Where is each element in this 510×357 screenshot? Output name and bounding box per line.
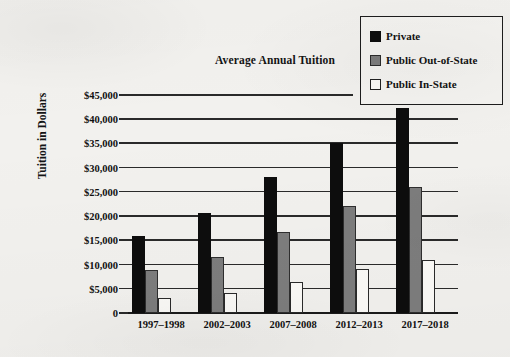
x-axis-tick-labels: 1997–19982002–20032007–20082012–20132017… — [128, 319, 458, 339]
bar-group — [198, 95, 237, 313]
y-axis-tick-label: $35,000 — [52, 138, 118, 149]
y-axis-tick-label: $15,000 — [52, 235, 118, 246]
y-axis-tick-label: $40,000 — [52, 114, 118, 125]
bar-group — [396, 95, 435, 313]
legend-swatch-icon — [370, 31, 381, 42]
bar[interactable] — [396, 108, 409, 313]
y-axis-tick-mark — [119, 118, 128, 120]
bar[interactable] — [198, 213, 211, 313]
bar[interactable] — [145, 270, 158, 313]
bar-group — [132, 95, 171, 313]
bar[interactable] — [132, 236, 145, 314]
y-axis-tick-mark — [119, 312, 128, 314]
legend-item[interactable]: Public In-State — [370, 72, 502, 96]
bar[interactable] — [422, 260, 435, 313]
x-axis-tick-label: 2017–2018 — [387, 319, 463, 330]
bar[interactable] — [343, 206, 356, 313]
y-axis-tick-mark — [119, 239, 128, 241]
y-axis-tick-label: $45,000 — [52, 90, 118, 101]
y-axis-tick-label: $25,000 — [52, 186, 118, 197]
bar[interactable] — [277, 232, 290, 313]
bar[interactable] — [356, 269, 369, 313]
x-axis-tick-label: 2012–2013 — [321, 319, 397, 330]
bar[interactable] — [330, 143, 343, 313]
legend-swatch-icon — [370, 55, 381, 66]
y-axis-tick-label: $10,000 — [52, 259, 118, 270]
legend-label: Private — [386, 31, 420, 42]
y-axis-tick-mark — [119, 94, 128, 96]
y-axis-tick-label: $5,000 — [52, 283, 118, 294]
bar[interactable] — [211, 257, 224, 313]
bar[interactable] — [409, 187, 422, 313]
y-axis-tick-mark — [119, 167, 128, 169]
y-axis-tick-labels: $45,000$40,000$35,000$30,000$25,000$20,0… — [52, 95, 118, 313]
x-axis-tick-label: 2007–2008 — [255, 319, 331, 330]
y-axis-tick-label: $30,000 — [52, 162, 118, 173]
legend-label: Public Out-of-State — [386, 55, 477, 66]
legend-item[interactable]: Private — [370, 24, 502, 48]
bar[interactable] — [264, 177, 277, 313]
y-axis-tick-mark — [119, 215, 128, 217]
bar[interactable] — [224, 293, 237, 313]
x-axis-tick-label: 2002–2003 — [189, 319, 265, 330]
bar-group — [264, 95, 303, 313]
legend-label: Public In-State — [386, 79, 457, 90]
y-axis-tick-mark — [119, 191, 128, 193]
legend-item[interactable]: Public Out-of-State — [370, 48, 502, 72]
y-axis-tick-mark — [119, 142, 128, 144]
y-axis-tick-mark — [119, 288, 128, 290]
y-axis-tick-mark — [119, 264, 128, 266]
bar[interactable] — [290, 282, 303, 313]
y-axis-tick-label: $20,000 — [52, 211, 118, 222]
y-axis-tick-label: 0 — [52, 308, 118, 319]
bar[interactable] — [158, 298, 171, 313]
legend-swatch-icon — [370, 79, 381, 90]
bars-layer — [128, 95, 458, 313]
chart-title: Average Annual Tuition — [200, 54, 350, 66]
chart-legend: PrivatePublic Out-of-StatePublic In-Stat… — [360, 16, 503, 105]
bar-chart: Average Annual Tuition Tuition in Dollar… — [0, 0, 510, 357]
bar-group — [330, 95, 369, 313]
y-axis-title: Tuition in Dollars — [36, 66, 48, 206]
x-axis-tick-label: 1997–1998 — [123, 319, 199, 330]
